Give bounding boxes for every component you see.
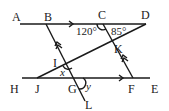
angle-arc-y bbox=[79, 78, 86, 89]
label-f: F bbox=[128, 82, 135, 96]
label-l: L bbox=[85, 98, 92, 111]
angle-label-120: 120° bbox=[76, 25, 97, 37]
label-g: G bbox=[68, 82, 77, 96]
label-h: H bbox=[10, 82, 19, 96]
angle-label-y: y bbox=[85, 80, 91, 92]
label-c: C bbox=[98, 8, 106, 22]
label-b: B bbox=[44, 10, 52, 24]
angle-label-85: 85° bbox=[111, 25, 126, 37]
angle-label-x: x bbox=[59, 66, 65, 78]
label-e: E bbox=[151, 82, 158, 96]
label-a: A bbox=[12, 10, 21, 24]
label-j: J bbox=[35, 82, 40, 96]
geometry-diagram: A B C D K I H J G F E L 120° 85° x y bbox=[0, 0, 169, 111]
label-d: D bbox=[141, 8, 150, 22]
label-i: I bbox=[53, 56, 57, 70]
label-k: K bbox=[114, 42, 123, 56]
